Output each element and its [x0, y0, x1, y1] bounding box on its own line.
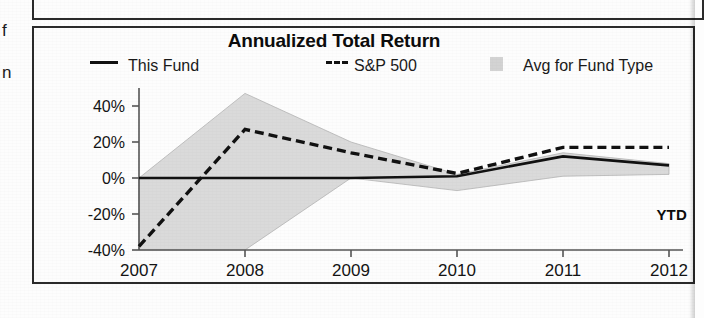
- x-tick-label: 2007: [120, 261, 158, 280]
- x-tick-label: 2010: [438, 261, 476, 280]
- x-tick-label: 2011: [545, 261, 582, 280]
- dashed-line-marker-icon: [326, 61, 348, 64]
- chart-title: Annualized Total Return: [34, 30, 634, 52]
- margin-glyph-bottom: n: [2, 63, 11, 83]
- x-tick-label: 2012: [650, 261, 688, 280]
- y-tick-label: -40%: [88, 242, 125, 259]
- x-tick-label: 2008: [226, 261, 264, 280]
- x-tick-label: 2009: [332, 261, 370, 280]
- y-tick-label: 20%: [93, 134, 125, 151]
- annualized-total-return-line-chart: 40%20%0%-20%-40%200720082009201020112012: [34, 82, 693, 282]
- avg-fund-type-band: [139, 93, 669, 250]
- y-tick-label: -20%: [88, 206, 125, 223]
- legend-item-avg-fund-type: Avg for Fund Type: [490, 54, 653, 76]
- chart-legend: This Fund S&P 500 Avg for Fund Type: [34, 54, 679, 78]
- chart-panel: Annualized Total Return This Fund S&P 50…: [32, 26, 695, 284]
- legend-label-sp500: S&P 500: [354, 57, 417, 74]
- ytd-label: YTD: [656, 206, 687, 223]
- solid-line-marker-icon: [90, 61, 118, 64]
- legend-item-sp500: S&P 500: [326, 54, 417, 76]
- plot-area: 40%20%0%-20%-40%200720082009201020112012: [34, 82, 693, 282]
- y-tick-label: 40%: [93, 98, 125, 115]
- legend-label-this-fund: This Fund: [128, 57, 199, 74]
- y-tick-label: 0%: [102, 170, 125, 187]
- panel-above-partial: [32, 0, 704, 20]
- legend-label-avg-fund-type: Avg for Fund Type: [523, 57, 653, 74]
- gray-swatch-marker-icon: [490, 57, 503, 71]
- legend-item-this-fund: This Fund: [90, 54, 199, 76]
- margin-glyph-top: f: [2, 21, 7, 41]
